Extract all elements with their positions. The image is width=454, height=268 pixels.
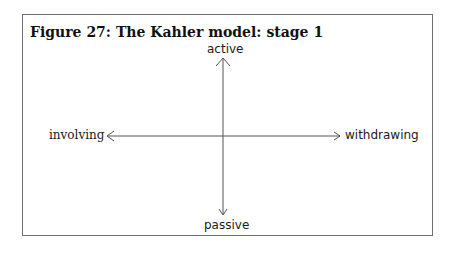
axis-label-active: active [207,42,243,56]
axis-label-involving: involving [49,128,104,142]
axis-label-withdrawing: withdrawing [345,128,419,142]
axis-label-passive: passive [204,218,249,232]
